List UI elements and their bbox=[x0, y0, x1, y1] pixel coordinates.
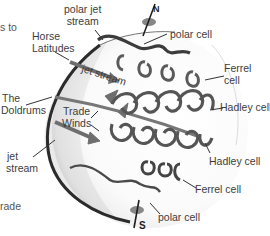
label-polar-jet-stream: polar jet stream bbox=[64, 3, 101, 27]
label-polar-cell-north: polar cell bbox=[170, 28, 212, 40]
label-hadley-cell-north: Hadley cell bbox=[220, 101, 270, 113]
label-trade-winds: Trade Winds bbox=[62, 105, 91, 129]
edge-text-fragment-top: s to bbox=[0, 21, 17, 33]
label-jet-stream-lower: jet stream bbox=[6, 150, 38, 174]
label-ferrel-cell-south: Ferrel cell bbox=[195, 183, 241, 195]
label-line: Winds bbox=[62, 117, 91, 129]
label-hadley-cell-south: Hadley cell bbox=[209, 155, 260, 167]
label-ferrel-cell-north: Ferrel cell bbox=[224, 62, 251, 86]
label-line: stream bbox=[6, 162, 38, 174]
label-the-doldrums: The Doldrums bbox=[1, 92, 46, 116]
edge-text-fragment-bottom: rade bbox=[0, 200, 21, 212]
label-line: Latitudes bbox=[32, 42, 75, 54]
label-line: polar jet bbox=[64, 3, 101, 15]
svg-text:S: S bbox=[139, 220, 146, 231]
label-line: Doldrums bbox=[1, 104, 46, 116]
label-polar-cell-south: polar cell bbox=[158, 211, 200, 223]
label-horse-latitudes: Horse Latitudes bbox=[32, 30, 75, 54]
label-line: The bbox=[1, 92, 46, 104]
label-line: Trade bbox=[62, 105, 91, 117]
label-line: Ferrel bbox=[224, 62, 251, 74]
label-line: jet bbox=[6, 150, 38, 162]
label-line: cell bbox=[224, 74, 251, 86]
label-line: Horse bbox=[32, 30, 75, 42]
label-line: stream bbox=[64, 15, 101, 27]
svg-text:N: N bbox=[153, 4, 160, 14]
